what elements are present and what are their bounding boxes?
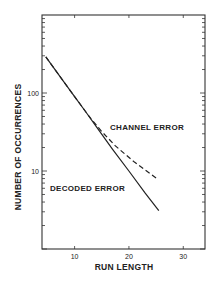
x-tick-label: 20 (125, 253, 133, 260)
x-tick-label: 10 (71, 253, 79, 260)
plot-frame (42, 15, 205, 249)
y-axis-title: NUMBER OF OCCURRENCES (13, 84, 23, 211)
series-label-decoded-error: DECODED ERROR (50, 184, 125, 193)
series-label-channel-error: CHANNEL ERROR (110, 123, 184, 132)
y-tick-label: 100 (27, 90, 39, 97)
axis-ticks: 10100102030 (27, 15, 205, 260)
x-axis-title: RUN LENGTH (95, 262, 154, 272)
y-tick-label: 10 (31, 168, 39, 175)
series-channel-error (46, 57, 156, 178)
x-tick-label: 30 (179, 253, 187, 260)
plot-border (42, 15, 205, 249)
chart: 10100102030 NUMBER OF OCCURRENCES RUN LE… (0, 0, 218, 285)
